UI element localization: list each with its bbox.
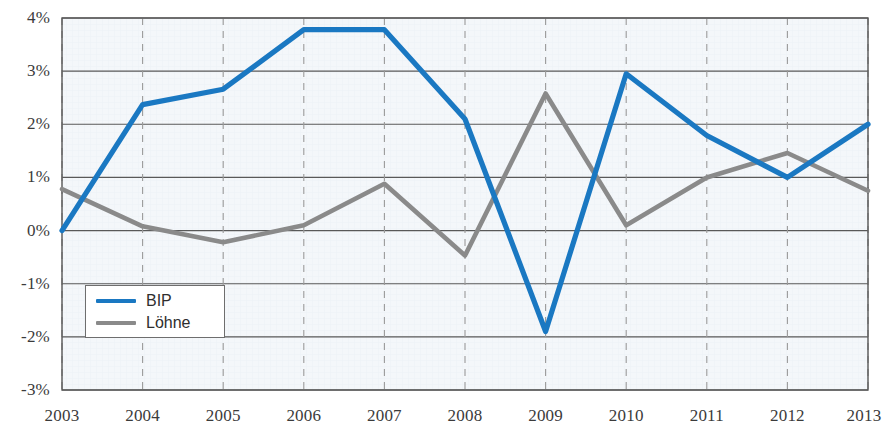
x-tick-label: 2011 [667, 406, 747, 426]
x-tick-label: 2004 [103, 406, 183, 426]
y-tick-label: 4% [4, 8, 50, 28]
x-tick-label: 2006 [264, 406, 344, 426]
x-tick-label: 2013 [824, 406, 886, 426]
y-tick-label: 2% [4, 114, 50, 134]
x-tick-label: 2009 [506, 406, 586, 426]
legend-swatch-bip [96, 299, 136, 304]
y-tick-label: -1% [4, 274, 50, 294]
legend-label-bip: BIP [146, 293, 172, 309]
y-tick-label: -3% [4, 380, 50, 400]
legend-label-loehne: Löhne [146, 315, 191, 331]
legend-item-bip: BIP [96, 290, 172, 312]
y-tick-label: 1% [4, 167, 50, 187]
x-tick-label: 2008 [425, 406, 505, 426]
legend-item-loehne: Löhne [96, 312, 191, 334]
x-tick-label: 2005 [183, 406, 263, 426]
y-tick-label: 0% [4, 221, 50, 241]
y-tick-label: -2% [4, 327, 50, 347]
x-tick-label: 2012 [747, 406, 827, 426]
y-tick-label: 3% [4, 61, 50, 81]
x-tick-label: 2007 [344, 406, 424, 426]
chart-legend: BIP Löhne [85, 285, 225, 338]
x-tick-label: 2003 [22, 406, 102, 426]
x-tick-label: 2010 [586, 406, 666, 426]
legend-swatch-loehne [96, 321, 136, 326]
